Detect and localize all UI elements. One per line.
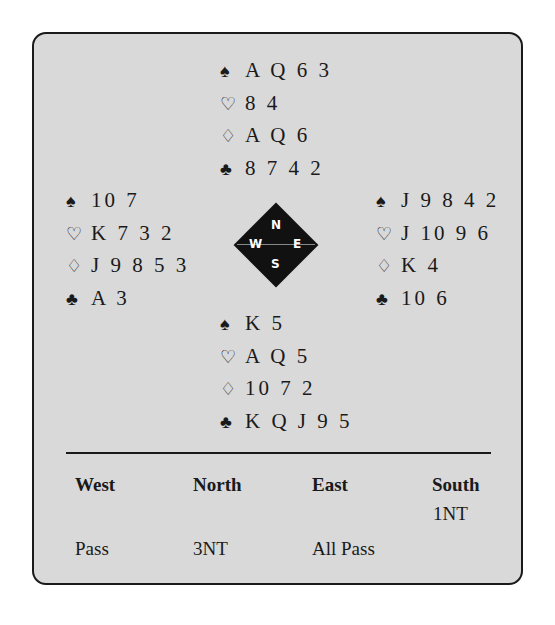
west-diamonds: ♢J 9 8 5 3 [66,249,189,282]
west-spades: ♠10 7 [66,184,189,217]
club-icon: ♣ [376,283,401,316]
north-spades: ♠A Q 6 3 [220,54,332,87]
west-clubs: ♣A 3 [66,282,189,315]
spade-icon: ♠ [376,185,401,218]
east-clubs: ♣10 6 [376,282,499,315]
spade-icon: ♠ [66,185,91,218]
east-spades: ♠J 9 8 4 2 [376,184,499,217]
auction-bid: All Pass [312,538,375,560]
diamond-icon: ♢ [376,250,401,283]
compass-south: S [271,257,280,271]
south-diamonds: ♢10 7 2 [220,372,353,405]
north-diamonds: ♢A Q 6 [220,119,332,152]
north-clubs: ♣8 7 4 2 [220,152,332,185]
auction-bid: 3NT [193,538,228,560]
west-hearts: ♡K 7 3 2 [66,217,189,250]
compass-diamond: N W E S [233,202,319,288]
auction-bid: Pass [75,538,109,560]
compass-west: W [249,237,262,251]
east-hearts: ♡J 10 9 6 [376,217,499,250]
south-spades: ♠K 5 [220,307,353,340]
heart-icon: ♡ [220,341,245,374]
compass-east: E [293,237,301,251]
club-icon: ♣ [220,153,245,186]
diamond-icon: ♢ [220,120,245,153]
east-hand: ♠J 9 8 4 2 ♡J 10 9 6 ♢K 4 ♣10 6 [376,184,499,314]
east-diamonds: ♢K 4 [376,249,499,282]
auction-header-north: North [193,474,242,496]
spade-icon: ♠ [220,55,245,88]
north-hand: ♠A Q 6 3 ♡8 4 ♢A Q 6 ♣8 7 4 2 [220,54,332,184]
south-hearts: ♡A Q 5 [220,340,353,373]
south-clubs: ♣K Q J 9 5 [220,405,353,438]
auction-bid: 1NT [433,503,468,525]
compass-shape [234,203,319,288]
heart-icon: ♡ [376,218,401,251]
heart-icon: ♡ [66,218,91,251]
compass-north: N [271,218,281,232]
south-hand: ♠K 5 ♡A Q 5 ♢10 7 2 ♣K Q J 9 5 [220,307,353,437]
diamond-icon: ♢ [220,373,245,406]
club-icon: ♣ [220,406,245,439]
auction-header-east: East [312,474,348,496]
heart-icon: ♡ [220,88,245,121]
club-icon: ♣ [66,283,91,316]
diamond-icon: ♢ [66,250,91,283]
west-hand: ♠10 7 ♡K 7 3 2 ♢J 9 8 5 3 ♣A 3 [66,184,189,314]
auction-header-west: West [75,474,115,496]
auction-header-south: South [432,474,480,496]
north-hearts: ♡8 4 [220,87,332,120]
auction-divider [66,452,491,454]
spade-icon: ♠ [220,308,245,341]
